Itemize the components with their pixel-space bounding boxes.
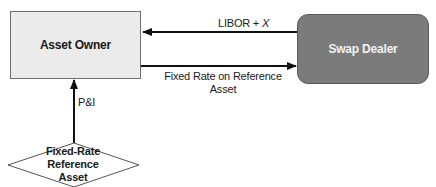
fixed-rate-label-line-2: Asset [148,83,298,96]
reference-asset-label-line-2: Reference [28,158,118,171]
libor-label-prefix: LIBOR + [218,17,262,29]
reference-asset-label-line-3: Asset [28,171,118,184]
reference-asset-label: Fixed-Rate Reference Asset [28,145,118,184]
swap-diagram: Asset Owner Swap Dealer LIBOR + X Fixed … [0,0,436,187]
asset-owner-node: Asset Owner [10,11,141,79]
asset-owner-label: Asset Owner [40,38,111,52]
swap-dealer-label: Swap Dealer [328,42,397,56]
pi-label: P&I [78,96,95,109]
libor-label: LIBOR + X [218,17,298,30]
swap-dealer-node: Swap Dealer [297,14,429,84]
fixed-rate-label-line-1: Fixed Rate on Reference [148,70,298,83]
fixed-rate-label: Fixed Rate on Reference Asset [148,70,298,96]
reference-asset-label-line-1: Fixed-Rate [28,145,118,158]
libor-label-variable: X [262,17,269,29]
